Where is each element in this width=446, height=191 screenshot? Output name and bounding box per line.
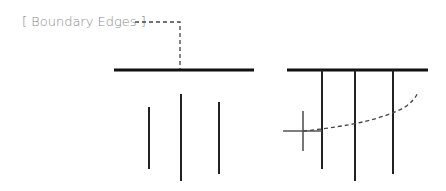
right-diagram xyxy=(283,70,428,181)
label-leader-line xyxy=(135,22,180,70)
diagram-canvas xyxy=(0,0,446,191)
left-diagram xyxy=(114,70,254,181)
dashed-curve xyxy=(303,92,418,131)
